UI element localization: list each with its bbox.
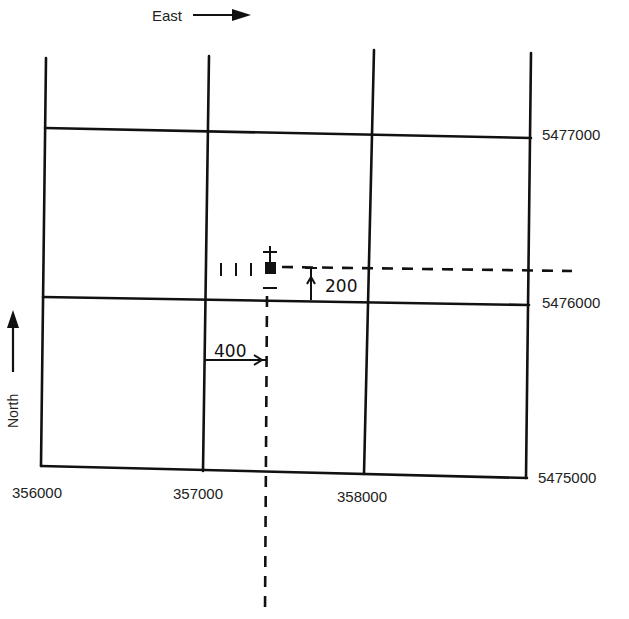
east-label: East <box>152 7 183 24</box>
north-arrow-icon <box>7 310 19 372</box>
easting-label-358000: 358000 <box>337 488 387 505</box>
north-offset-arrow-icon <box>305 268 317 300</box>
northing-line-5476000 <box>43 297 529 305</box>
easting-dashed-line <box>265 296 267 612</box>
north-label: North <box>5 394 21 428</box>
east-arrow-icon <box>193 9 251 21</box>
easting-label-357000: 357000 <box>173 485 223 502</box>
east-offset-label: 400 <box>214 341 246 361</box>
northing-label-5476000: 5476000 <box>542 294 600 311</box>
northing-line-5475000 <box>41 466 527 478</box>
easting-label-356000: 356000 <box>12 484 62 501</box>
easting-line-356000 <box>41 58 46 466</box>
easting-line-359000 <box>526 53 531 478</box>
grid-map-diagram: East North 5477000 5476000 5475000 35600… <box>0 0 629 619</box>
easting-line-357000 <box>203 56 209 471</box>
point-marker-icon <box>221 246 277 288</box>
northing-label-5477000: 5477000 <box>542 126 600 143</box>
northing-line-5477000 <box>45 128 531 138</box>
northing-label-5475000: 5475000 <box>538 469 596 486</box>
north-offset-label: 200 <box>325 276 357 296</box>
horizontal-grid-lines <box>41 128 531 478</box>
vertical-grid-lines <box>41 50 531 478</box>
easting-line-358000 <box>364 50 374 474</box>
